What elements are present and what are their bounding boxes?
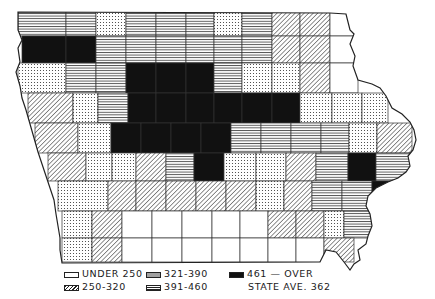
county bbox=[296, 238, 324, 262]
county bbox=[73, 93, 98, 123]
county bbox=[166, 153, 194, 181]
county bbox=[96, 63, 126, 93]
county bbox=[362, 93, 388, 123]
legend-item-461-over: 461 — OVER bbox=[229, 268, 331, 279]
county bbox=[324, 211, 344, 238]
county bbox=[296, 211, 324, 238]
county bbox=[18, 63, 66, 93]
legend-item-250-320: 250-320 bbox=[64, 281, 143, 292]
county bbox=[214, 12, 242, 36]
swatch-under-250 bbox=[64, 272, 79, 278]
county bbox=[242, 93, 272, 123]
county bbox=[312, 181, 342, 211]
county bbox=[86, 153, 112, 181]
state-average: STATE AVE. 362 bbox=[229, 281, 331, 292]
county bbox=[186, 12, 214, 36]
county bbox=[344, 211, 374, 238]
legend-col-2: 321-390 391-460 bbox=[146, 268, 208, 292]
county bbox=[156, 93, 186, 123]
county bbox=[35, 123, 78, 153]
county bbox=[156, 36, 186, 63]
county bbox=[66, 36, 96, 63]
county bbox=[152, 211, 182, 238]
county bbox=[214, 63, 242, 93]
county bbox=[332, 93, 362, 123]
county bbox=[66, 12, 96, 36]
county bbox=[186, 93, 214, 123]
county bbox=[66, 63, 96, 93]
county bbox=[272, 93, 300, 123]
county bbox=[108, 181, 136, 211]
legend-item-under-250: UNDER 250 bbox=[64, 268, 143, 279]
county bbox=[214, 93, 242, 123]
county bbox=[291, 123, 321, 153]
county bbox=[156, 63, 186, 93]
county bbox=[256, 153, 286, 181]
county bbox=[122, 238, 152, 262]
county bbox=[28, 93, 73, 123]
county bbox=[98, 93, 128, 123]
county bbox=[300, 12, 330, 36]
county bbox=[92, 238, 122, 262]
county bbox=[226, 181, 256, 211]
county bbox=[128, 93, 156, 123]
county bbox=[376, 153, 412, 181]
county bbox=[286, 153, 316, 181]
county bbox=[194, 153, 224, 181]
county bbox=[300, 63, 330, 93]
county bbox=[136, 153, 166, 181]
county bbox=[48, 153, 86, 181]
county bbox=[268, 211, 296, 238]
legend: UNDER 250 250-320 bbox=[64, 268, 143, 292]
county bbox=[272, 36, 300, 63]
swatch-321-390 bbox=[146, 272, 161, 278]
county bbox=[372, 181, 394, 211]
county bbox=[62, 211, 92, 238]
county bbox=[122, 211, 152, 238]
county bbox=[126, 63, 156, 93]
county bbox=[272, 63, 300, 93]
county bbox=[182, 238, 212, 262]
county bbox=[111, 123, 141, 153]
county bbox=[212, 211, 240, 238]
county bbox=[321, 123, 349, 153]
county bbox=[242, 36, 272, 63]
county bbox=[152, 238, 182, 262]
county bbox=[22, 36, 66, 63]
iowa-choropleth-map bbox=[0, 0, 435, 299]
legend-item-321-390: 321-390 bbox=[146, 268, 208, 279]
swatch-250-320 bbox=[64, 285, 79, 291]
county bbox=[349, 123, 377, 153]
county bbox=[96, 36, 126, 63]
county bbox=[284, 181, 312, 211]
county bbox=[231, 123, 261, 153]
county bbox=[136, 181, 166, 211]
county bbox=[166, 181, 196, 211]
county bbox=[186, 36, 214, 63]
legend-col-3: 461 — OVER STATE AVE. 362 bbox=[229, 268, 331, 292]
county bbox=[196, 181, 226, 211]
county bbox=[272, 12, 300, 36]
county bbox=[182, 211, 212, 238]
county bbox=[268, 238, 296, 262]
swatch-461-over bbox=[229, 272, 244, 278]
county bbox=[156, 12, 186, 36]
county bbox=[201, 123, 231, 153]
county bbox=[92, 211, 122, 238]
county bbox=[112, 153, 136, 181]
county bbox=[78, 123, 111, 153]
county bbox=[126, 36, 156, 63]
county bbox=[224, 153, 256, 181]
county bbox=[300, 36, 330, 63]
county bbox=[186, 63, 214, 93]
county bbox=[58, 181, 108, 211]
swatch-391-460 bbox=[146, 285, 161, 291]
county bbox=[256, 181, 284, 211]
county bbox=[300, 93, 332, 123]
county bbox=[141, 123, 171, 153]
county bbox=[330, 12, 358, 36]
county bbox=[377, 123, 412, 153]
county bbox=[126, 12, 156, 36]
county bbox=[214, 36, 242, 63]
county bbox=[62, 238, 92, 262]
